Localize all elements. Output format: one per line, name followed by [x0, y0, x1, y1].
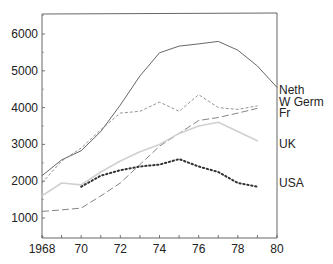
series-line-uk — [42, 122, 257, 196]
x-tick-label: 80 — [270, 242, 284, 256]
legend: NethW GermFrUKUSA — [279, 83, 324, 190]
plot-frame — [42, 13, 277, 238]
x-tick-label: 78 — [231, 242, 245, 256]
x-tick-label: 70 — [74, 242, 88, 256]
legend-label-fr: Fr — [279, 106, 290, 120]
series-line-w-germ — [42, 95, 257, 183]
y-tick-label: 2000 — [11, 174, 38, 188]
y-tick-label: 3000 — [11, 137, 38, 151]
legend-label-usa: USA — [279, 176, 304, 190]
plot-border — [42, 13, 277, 238]
x-tick-label: 1968 — [29, 242, 56, 256]
x-tick-label: 72 — [114, 242, 128, 256]
line-chart: 100020003000400050006000 196870727476788… — [0, 0, 333, 264]
y-tick-label: 6000 — [11, 27, 38, 41]
y-tick-label: 5000 — [11, 64, 38, 78]
y-tick-label: 4000 — [11, 101, 38, 115]
x-tick-label: 74 — [153, 242, 167, 256]
x-tick-label: 76 — [192, 242, 206, 256]
y-tick-label: 1000 — [11, 211, 38, 225]
series-line-fr — [42, 108, 257, 211]
series-layer — [42, 41, 277, 211]
series-line-usa — [81, 159, 257, 187]
y-axis: 100020003000400050006000 — [11, 16, 45, 237]
legend-label-uk: UK — [279, 137, 296, 151]
